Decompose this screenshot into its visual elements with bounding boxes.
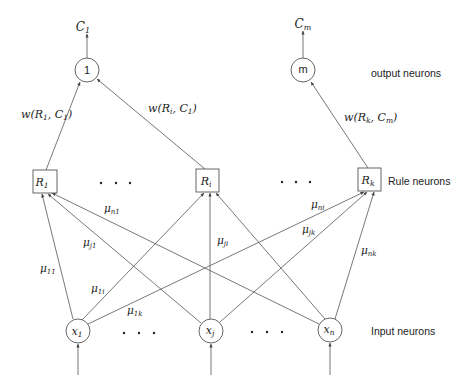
membership-label-mu11: μ11 (40, 262, 56, 276)
output-C1-label: C1 (76, 20, 90, 35)
membership-label-munk: μnk (361, 244, 377, 258)
edge-Ri-1 (97, 79, 205, 169)
input-node-xn: xn (318, 318, 342, 342)
edge-xj-R1 (48, 194, 201, 323)
edge-Rk-m (311, 82, 368, 168)
rule-to-output-edges (46, 79, 368, 170)
input-node-x1: x1 (66, 319, 90, 343)
rule-node-Rk: Rk (358, 168, 381, 191)
fuzzy-neural-network-diagram: 1 C1 m Cm output neurons R1 Ri Rk Rule n… (0, 0, 464, 388)
weight-label-Ri-C1: w(Ri, C1) (148, 102, 197, 116)
output-node-m-label: m (298, 63, 307, 75)
rule-ellipsis-left (100, 182, 131, 184)
input-node-xj: xj (199, 319, 223, 343)
input-ellipsis-right (251, 331, 283, 333)
output-Cm-label: Cm (295, 17, 312, 32)
edge-xj-Rk (220, 192, 367, 322)
membership-label-mu1k: μ1k (127, 304, 143, 318)
input-layer-label: Input neurons (371, 325, 435, 337)
rule-node-Ri: Ri (196, 169, 219, 192)
rule-layer-label: Rule neurons (388, 175, 450, 187)
membership-label-muji: μji (217, 234, 228, 248)
membership-label-mujk: μjk (302, 223, 315, 237)
membership-label-muni: μni (311, 198, 325, 212)
output-node-1: 1 (75, 58, 99, 82)
output-node-m: m (291, 58, 315, 82)
output-node-1-label: 1 (84, 64, 90, 76)
input-ellipsis-left (123, 332, 155, 334)
edge-R1-1 (46, 82, 80, 170)
membership-label-mun1: μn1 (104, 202, 120, 216)
weight-label-R1-C1: w(R1, C1) (21, 108, 72, 122)
weight-label-Rk-Cm: w(Rk, Cm) (344, 111, 397, 125)
membership-label-mu1i: μ1i (91, 282, 105, 296)
rule-ellipsis-right (281, 181, 311, 183)
edge-x1-R1 (42, 194, 73, 319)
rule-node-R1: R1 (33, 170, 57, 193)
edge-x1-Ri (82, 193, 204, 320)
membership-label-muj1: μj1 (83, 236, 96, 250)
output-layer-label: output neurons (371, 67, 441, 79)
